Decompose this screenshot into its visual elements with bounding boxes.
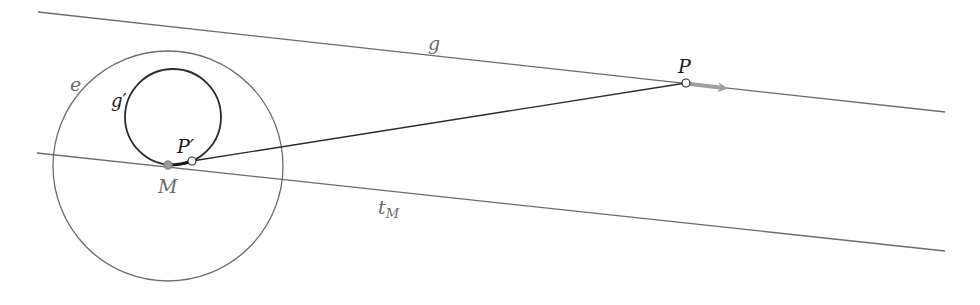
- point-P-prime[interactable]: [188, 157, 196, 165]
- label-P: P: [677, 55, 692, 77]
- geometry-diagram: g e g′ P′ M P tM: [0, 0, 980, 305]
- circle-g-prime: [125, 69, 221, 165]
- segment-P-P-prime: [192, 83, 686, 161]
- point-M[interactable]: [164, 161, 172, 169]
- label-e: e: [70, 73, 81, 95]
- label-P-prime: P′: [176, 135, 195, 157]
- label-tM: tM: [378, 196, 400, 221]
- label-g-prime: g′: [111, 90, 127, 111]
- direction-arrow-icon: [690, 84, 724, 88]
- label-t-subscript: M: [385, 206, 400, 221]
- tangent-line-tM: [37, 153, 945, 251]
- line-g: [38, 12, 945, 112]
- label-M: M: [157, 175, 178, 197]
- label-g: g: [428, 32, 440, 54]
- point-P[interactable]: [682, 79, 690, 87]
